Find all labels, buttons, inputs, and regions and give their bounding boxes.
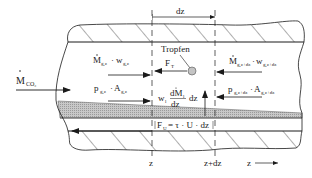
svg-text:p: p	[94, 83, 99, 93]
svg-text:g,z: g,z	[101, 61, 108, 67]
momentum-flux-in: M g,z · w g,z	[93, 54, 150, 75]
svg-text:w: w	[256, 56, 263, 66]
liquid-film	[58, 101, 302, 118]
control-volume-diagram: dz M CO₂ M g,z · w g,z p g,z · A g,z Tro…	[0, 0, 312, 178]
svg-text:Tropfen: Tropfen	[161, 44, 190, 54]
svg-text:M: M	[16, 75, 25, 86]
svg-text:T: T	[171, 64, 174, 69]
left-break-line	[56, 42, 70, 144]
svg-text:·: ·	[110, 83, 113, 93]
svg-text:g,z+dz: g,z+dz	[263, 62, 277, 68]
svg-text:w: w	[116, 55, 123, 65]
svg-text:dz: dz	[189, 93, 198, 103]
svg-text:dz: dz	[171, 99, 180, 109]
svg-text:M: M	[93, 55, 101, 65]
svg-text:dz: dz	[176, 6, 185, 16]
svg-text:g,z: g,z	[121, 89, 128, 95]
svg-text:A: A	[254, 84, 261, 94]
svg-text:p: p	[228, 84, 233, 94]
svg-text:M: M	[229, 56, 237, 66]
svg-text:·: ·	[111, 55, 114, 65]
svg-text:A: A	[114, 83, 121, 93]
svg-text:U: U	[163, 126, 167, 131]
svg-text:g,z: g,z	[123, 61, 130, 67]
svg-text:·: ·	[250, 84, 253, 94]
svg-text:g,z: g,z	[100, 89, 107, 95]
momentum-flux-out: M g,z+dz · w g,z+dz	[217, 55, 277, 72]
axis-labels: z z+dz z	[149, 158, 278, 168]
svg-text:F: F	[165, 58, 170, 68]
wall-friction: F U = τ · U · dz	[72, 120, 213, 131]
svg-text:z: z	[149, 158, 153, 168]
svg-text:w: w	[158, 93, 165, 103]
dz-dimension: dz	[152, 6, 215, 17]
upper-pipe-wall	[68, 21, 305, 42]
svg-text:dM: dM	[170, 88, 183, 98]
svg-text:z+dz: z+dz	[204, 158, 222, 168]
pressure-force-out: p g,z+dz · A g,z+dz	[217, 84, 275, 97]
pressure-force-in: p g,z · A g,z	[94, 83, 150, 101]
svg-text:g,z+dz: g,z+dz	[237, 62, 251, 68]
svg-text:g,z+dz: g,z+dz	[234, 90, 248, 96]
lower-pipe-wall	[67, 131, 302, 151]
svg-text:CO₂: CO₂	[26, 81, 36, 87]
droplet-icon	[188, 67, 196, 75]
svg-text:·: ·	[252, 56, 255, 66]
inlet-mass-flow: M CO₂	[16, 70, 70, 90]
svg-text:l: l	[165, 99, 167, 104]
droplet: Tropfen F T	[155, 44, 196, 75]
svg-text:z: z	[247, 158, 251, 168]
svg-text:g,z+dz: g,z+dz	[261, 90, 275, 96]
svg-text:= τ · U · dz: = τ · U · dz	[168, 120, 209, 130]
svg-text:F: F	[157, 120, 162, 130]
